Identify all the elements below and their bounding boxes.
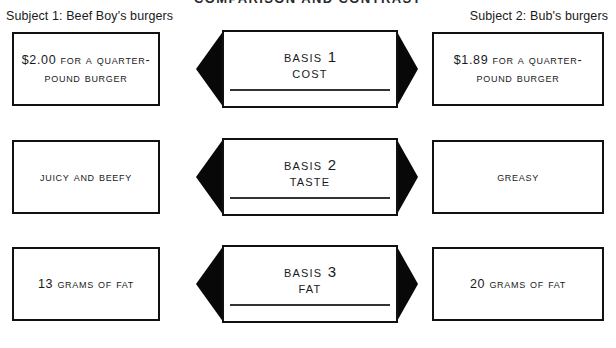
subject2-box-row2: Greasy [432,140,604,214]
arrow-right-head-icon [396,138,418,216]
basis-word-row1: Basis [284,48,322,65]
basis-number-row1: 1 [328,48,336,65]
subject1-box-row3: 13 grams of fat [12,247,160,321]
column-header-subject-2: Subject 2: Bub's burgers [470,9,608,23]
basis-name-row1: Cost [292,65,327,82]
subject1-text-row3: 13 grams of fat [38,275,134,293]
subject2-box-row3: 20 grams of fat [432,247,604,321]
subject2-text-row2: Greasy [497,168,539,186]
basis-underline-row3 [230,304,390,306]
arrow-left-head-icon [196,138,224,216]
basis-label-row3: Basis 3 Fat [222,245,398,323]
arrow-right-head-icon [396,30,418,108]
basis-label-row2: Basis 2 Taste [222,138,398,216]
basis-underline-row2 [230,197,390,199]
column-header-subject-1: Subject 1: Beef Boy's burgers [6,9,173,23]
document-title: COMPARISON AND CONTRAST [0,0,616,6]
basis-arrow-row1: Basis 1 Cost [196,30,418,108]
basis-title-row3: Basis 3 [284,264,336,280]
basis-word-row2: Basis [284,156,322,173]
basis-title-row2: Basis 2 [284,157,336,173]
arrow-left-head-icon [196,245,224,323]
comparison-contrast-diagram: COMPARISON AND CONTRAST Subject 1: Beef … [0,0,616,348]
subject1-text-row2: Juicy and beefy [40,168,132,186]
subject1-text-row1: $2.00 for a quarter-pound burger [20,51,152,87]
arrow-left-head-icon [196,30,224,108]
subject2-text-row1: $1.89 for a quarter-pound burger [440,51,596,87]
basis-title-row1: Basis 1 [284,49,336,65]
basis-name-row2: Taste [290,173,331,190]
basis-name-row3: Fat [299,280,322,297]
subject1-box-row1: $2.00 for a quarter-pound burger [12,32,160,106]
basis-number-row3: 3 [328,263,336,280]
subject2-text-row3: 20 grams of fat [470,275,566,293]
basis-underline-row1 [230,89,390,91]
subject1-box-row2: Juicy and beefy [12,140,160,214]
basis-label-row1: Basis 1 Cost [222,30,398,108]
basis-number-row2: 2 [328,156,336,173]
basis-arrow-row3: Basis 3 Fat [196,245,418,323]
basis-word-row3: Basis [284,263,322,280]
basis-arrow-row2: Basis 2 Taste [196,138,418,216]
arrow-right-head-icon [396,245,418,323]
subject2-box-row1: $1.89 for a quarter-pound burger [432,32,604,106]
